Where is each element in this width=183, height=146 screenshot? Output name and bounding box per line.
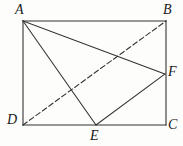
vertex-label-d: D: [7, 113, 17, 127]
segment-AF: [23, 21, 165, 74]
vertex-label-a: A: [15, 3, 24, 17]
segment-AE: [23, 21, 96, 125]
geometry-canvas: [0, 0, 183, 146]
segment-EF: [96, 74, 165, 125]
geometry-figure: A B C D E F: [0, 0, 183, 146]
vertex-label-f: F: [168, 65, 177, 79]
vertex-label-b: B: [163, 3, 172, 17]
vertex-label-e: E: [90, 129, 99, 143]
vertex-label-c: C: [168, 118, 177, 132]
diagonal-DB: [23, 21, 166, 125]
